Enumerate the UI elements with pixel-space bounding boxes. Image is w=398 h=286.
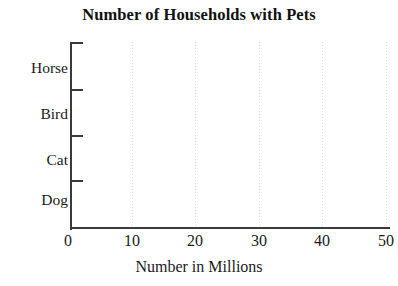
- x-axis-line: [70, 227, 390, 229]
- x-axis-tick-label: 10: [110, 232, 154, 250]
- x-axis-tick-label: 30: [237, 232, 281, 250]
- y-axis-category-label: Horse: [31, 60, 68, 76]
- y-axis-category-label: Cat: [46, 152, 68, 168]
- x-axis-tick-label: 40: [300, 232, 344, 250]
- y-axis-category-label: Dog: [41, 192, 68, 208]
- y-axis-category-label: Bird: [40, 106, 68, 122]
- y-axis-tick: [70, 135, 83, 137]
- x-axis-tick-label: 0: [46, 232, 90, 250]
- x-axis-tick-label: 50: [364, 232, 398, 250]
- x-axis-title: Number in Millions: [0, 258, 398, 276]
- gridline: [132, 42, 133, 228]
- plot-area: [70, 42, 390, 228]
- y-axis-tick: [70, 42, 83, 44]
- chart-title: Number of Households with Pets: [0, 5, 398, 25]
- gridline: [195, 42, 196, 228]
- x-axis-tick-label: 20: [173, 232, 217, 250]
- gridline: [259, 42, 260, 228]
- gridline: [386, 42, 387, 228]
- y-axis-tick: [70, 180, 83, 182]
- gridline: [322, 42, 323, 228]
- y-axis-tick: [70, 89, 83, 91]
- bar-chart: Number of Households with Pets HorseBird…: [0, 0, 398, 286]
